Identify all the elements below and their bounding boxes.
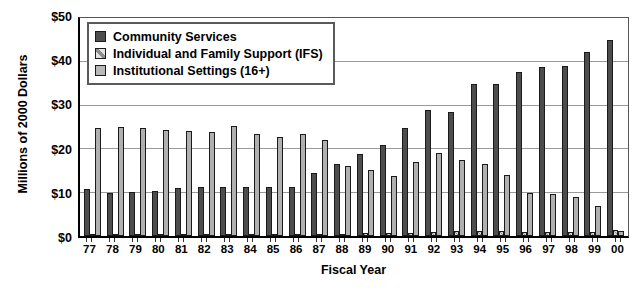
bar-group	[513, 18, 536, 236]
x-tick-label-99: 99	[583, 243, 606, 263]
bar-cs	[471, 84, 477, 236]
bar-inst	[550, 194, 556, 236]
chart-container: Millions of 2000 Dollars $0$10$20$30$40$…	[0, 0, 636, 289]
bar-inst	[322, 140, 328, 236]
bar-group	[491, 18, 514, 236]
x-tick-label-83: 83	[216, 243, 239, 263]
bar-inst	[527, 193, 533, 236]
x-tick-label-95: 95	[491, 243, 514, 263]
bar-group	[559, 18, 582, 236]
x-tick-label-86: 86	[285, 243, 308, 263]
bar-group	[468, 18, 491, 236]
y-tick-label: $40	[51, 54, 72, 68]
bar-cs	[493, 84, 499, 236]
bar-cs	[289, 187, 295, 236]
y-tick-label: $10	[51, 187, 72, 201]
x-tick-label-88: 88	[330, 243, 353, 263]
y-tick-label: $20	[51, 143, 72, 157]
y-axis-tick-labels: $0$10$20$30$40$50	[34, 0, 72, 289]
chart-legend: Community ServicesIndividual and Family …	[87, 22, 335, 85]
bar-cs	[84, 189, 90, 236]
x-tick-label-00: 00	[606, 243, 629, 263]
bar-cs	[220, 187, 226, 236]
legend-item: Institutional Settings (16+)	[95, 62, 323, 79]
bar-cs	[152, 191, 158, 236]
x-tick-label-77: 77	[78, 243, 101, 263]
x-tick-label-93: 93	[445, 243, 468, 263]
bar-cs	[243, 187, 249, 236]
bar-inst	[231, 126, 237, 236]
bar-inst	[504, 175, 510, 236]
x-tick-label-78: 78	[101, 243, 124, 263]
legend-label: Community Services	[113, 30, 237, 44]
bar-inst	[391, 176, 397, 236]
bar-cs	[425, 110, 431, 236]
bar-cs	[539, 67, 545, 236]
x-tick-label-91: 91	[399, 243, 422, 263]
x-tick-label-89: 89	[353, 243, 376, 263]
bar-inst	[482, 164, 488, 236]
legend-swatch-icon	[95, 65, 106, 76]
bar-cs	[448, 112, 454, 236]
x-tick-label-96: 96	[514, 243, 537, 263]
x-tick-label-81: 81	[170, 243, 193, 263]
x-tick-label-84: 84	[239, 243, 262, 263]
y-tick-label: $0	[58, 231, 72, 245]
bar-inst	[368, 170, 374, 236]
bar-group	[582, 18, 605, 236]
x-axis-title: Fiscal Year	[78, 263, 629, 277]
y-tick-label: $50	[51, 10, 72, 24]
bar-cs	[129, 192, 135, 236]
x-tick-label-94: 94	[468, 243, 491, 263]
x-tick-label-90: 90	[376, 243, 399, 263]
x-axis-tick-labels: 7778798081828384858687888990919293949596…	[78, 243, 629, 263]
bar-cs	[607, 40, 613, 236]
bar-inst	[618, 231, 624, 236]
bar-inst	[163, 130, 169, 236]
bar-inst	[573, 197, 579, 236]
bar-group	[445, 18, 468, 236]
bar-group	[422, 18, 445, 236]
bar-cs	[334, 164, 340, 236]
x-tick-label-80: 80	[147, 243, 170, 263]
bar-inst	[209, 132, 215, 236]
legend-label: Institutional Settings (16+)	[113, 64, 270, 78]
bar-inst	[186, 131, 192, 236]
bar-cs	[175, 188, 181, 236]
bar-cs	[198, 187, 204, 236]
bar-inst	[140, 128, 146, 237]
x-tick-label-92: 92	[422, 243, 445, 263]
bar-group	[354, 18, 377, 236]
x-tick-label-82: 82	[193, 243, 216, 263]
x-tick-label-85: 85	[262, 243, 285, 263]
bar-inst	[345, 166, 351, 236]
bar-inst	[300, 134, 306, 236]
legend-label: Individual and Family Support (IFS)	[113, 47, 323, 61]
bar-cs	[516, 72, 522, 236]
legend-swatch-icon	[95, 31, 106, 42]
bar-cs	[266, 187, 272, 236]
bar-group	[536, 18, 559, 236]
bar-cs	[311, 173, 317, 236]
bar-cs	[357, 154, 363, 236]
y-tick-label: $30	[51, 98, 72, 112]
x-tick-label-87: 87	[308, 243, 331, 263]
y-axis-title: Millions of 2000 Dollars	[16, 9, 30, 239]
bar-cs	[380, 145, 386, 236]
bar-inst	[277, 137, 283, 236]
bar-group	[400, 18, 423, 236]
bar-cs	[107, 193, 113, 236]
bar-cs	[584, 52, 590, 236]
x-tick-label-98: 98	[560, 243, 583, 263]
bar-inst	[413, 162, 419, 236]
bar-inst	[95, 128, 101, 237]
bar-group	[377, 18, 400, 236]
bar-cs	[562, 66, 568, 236]
bar-inst	[595, 206, 601, 236]
x-tick-label-97: 97	[537, 243, 560, 263]
bar-inst	[459, 160, 465, 236]
legend-item: Community Services	[95, 28, 323, 45]
bar-cs	[402, 128, 408, 237]
bar-group	[604, 18, 627, 236]
bar-inst	[254, 134, 260, 236]
